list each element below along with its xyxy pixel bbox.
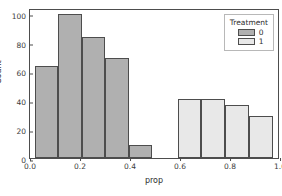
plot-axes: 020406080100 0.00.20.40.60.81.0 Treatmen…	[29, 9, 279, 159]
x-tick-label: 0.8	[224, 158, 236, 171]
histogram-bar	[105, 58, 129, 158]
histogram-bar	[35, 66, 58, 158]
legend-item-label: 0	[259, 29, 264, 37]
legend-item-label: 1	[259, 38, 264, 46]
legend-swatch-icon	[238, 29, 255, 36]
y-tick-label: 80	[16, 40, 30, 49]
histogram-figure: 020406080100 0.00.20.40.60.81.0 Treatmen…	[0, 0, 282, 196]
x-tick-label: 0.0	[24, 158, 36, 171]
y-tick-label: 20	[16, 127, 30, 136]
x-tick-label: 0.4	[124, 158, 136, 171]
y-axis-label: Count	[0, 60, 3, 84]
y-tick-label: 40	[16, 98, 30, 107]
y-tick-label: 60	[16, 69, 30, 78]
legend-item: 0	[230, 29, 268, 37]
legend-title: Treatment	[230, 18, 268, 27]
histogram-bar	[201, 99, 225, 158]
histogram-bar	[58, 14, 82, 158]
histogram-bar	[129, 145, 152, 158]
y-tick-label: 100	[12, 11, 30, 20]
legend-entries: 01	[230, 29, 268, 45]
histogram-bar	[178, 99, 202, 158]
x-axis-label: prop	[29, 176, 279, 185]
histogram-bar	[249, 116, 273, 158]
histogram-bar	[225, 105, 249, 158]
legend-swatch-icon	[238, 38, 255, 45]
legend: Treatment 01	[224, 14, 274, 51]
x-tick-label: 0.2	[74, 158, 86, 171]
x-tick-label: 1.0	[274, 158, 282, 171]
legend-item: 1	[230, 38, 268, 46]
x-tick-label: 0.6	[174, 158, 186, 171]
cropped-top-text	[0, 0, 282, 7]
histogram-bar	[82, 37, 105, 158]
